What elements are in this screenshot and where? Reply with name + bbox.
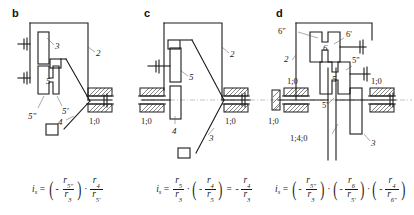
- formula-c-result-den-sub: 3: [247, 196, 250, 203]
- panel-d-label-2: 2: [284, 54, 289, 64]
- panel-c-label-ground-right: 1;0: [225, 116, 236, 126]
- panel-d-label-ground-left: 1;0: [287, 76, 298, 86]
- formula-c-term0: r5 r3: [173, 176, 184, 202]
- panel-d-label-6-dprime: 6": [278, 26, 286, 36]
- formula-panel-b: is = ( - r5" r3 ) · r4 r5': [2, 163, 134, 215]
- formula-row: is = ( - r5" r3 ) · r4 r5' is =: [0, 163, 414, 215]
- formula-d-term0-sign: -: [297, 184, 303, 194]
- formula-panel-d: is = ( - r5" r3 ) · ( - r6 r5' ) · (: [268, 163, 414, 215]
- formula-d-term1: r6 r5': [345, 176, 357, 202]
- panel-b-label-4: 4: [58, 117, 63, 127]
- panel-letter-d: d: [276, 8, 283, 19]
- formula-d-term0-num-sub: 5": [310, 182, 316, 189]
- formula-c-result-num-sub: 4: [247, 182, 250, 189]
- panel-b-label-ground: 1;0: [89, 116, 100, 126]
- panel-d-label-5-dprime: 5": [352, 55, 360, 65]
- panel-b-label-5-prime: 5': [62, 106, 70, 116]
- formula-b-term0-num-sub: 5": [67, 182, 73, 189]
- panel-letter-c: c: [144, 8, 150, 19]
- panel-d: d: [266, 0, 414, 165]
- formula-d-term0-den-sub: 3: [311, 196, 314, 203]
- formula-b-term1-num: r: [93, 175, 97, 185]
- formula-c-term1-num-sub: 4: [211, 182, 214, 189]
- panel-b-label-5-dprime: 5": [28, 111, 37, 121]
- formula-b-lhs-sub: s: [35, 188, 38, 195]
- formula-d-multiply-1: ·: [326, 184, 332, 194]
- formula-d-equals: =: [280, 184, 290, 194]
- panel-c-label-4: 4: [172, 126, 177, 136]
- formula-b-equals: =: [37, 184, 47, 194]
- panel-b-label-2: 2: [96, 48, 101, 58]
- panel-c-label-2: 2: [230, 49, 235, 59]
- formula-b-term1-den-sub: 5': [96, 196, 101, 203]
- formula-b-term0: r5" r3: [61, 176, 75, 202]
- panel-d-label-5-prime: 5': [322, 100, 328, 110]
- formula-d-term2-den-sub: 6": [391, 196, 397, 203]
- panel-c-label-ground-left: 1;0: [141, 116, 152, 126]
- panel-d-label-shaft-140: 1;4;0: [290, 133, 307, 143]
- panel-b-drawing: 3 2 5 5' 5" 4 1;0: [0, 0, 140, 165]
- panel-c-drawing: 5 2 4 3 1;0 1;0: [132, 0, 272, 165]
- formula-d-multiply-2: ·: [366, 184, 372, 194]
- formula-c-result-sign: -: [234, 184, 240, 194]
- panel-d-label-ground-far-left: 1;0: [268, 116, 279, 126]
- panel-b: b: [0, 0, 140, 165]
- panel-d-drawing: 6" 6' 6 2 5" 5 5' 3 1;0 1;0 1;0 1;4;0: [266, 0, 414, 165]
- formula-b-term0-den-sub: 3: [68, 196, 71, 203]
- panel-c-label-5: 5: [189, 72, 194, 82]
- formula-d-term2: r4 r6": [385, 176, 399, 202]
- panel-d-label-3: 3: [370, 138, 376, 148]
- formula-c-term0-num-sub: 5: [179, 182, 182, 189]
- formula-b-multiply: ·: [83, 184, 89, 194]
- formula-d-lhs-sub: s: [278, 188, 281, 195]
- formula-d-term1-den-sub: 5': [351, 196, 356, 203]
- panel-c-label-3: 3: [208, 133, 214, 143]
- panel-c: c: [132, 0, 272, 165]
- formula-d-term2-num-sub: 4: [392, 182, 395, 189]
- formula-d-term1-sign: -: [338, 184, 344, 194]
- panel-d-label-6: 6: [323, 43, 328, 53]
- panel-d-label-5: 5: [332, 74, 337, 84]
- formula-c-term1-sign: -: [198, 184, 204, 194]
- panel-letter-b: b: [12, 8, 19, 19]
- formula-panel-c: is = r5 r3 · ( - r4 r5 ) = - r4 r3: [138, 163, 272, 215]
- formula-c-equals: =: [161, 184, 171, 194]
- formula-c-lhs-sub: s: [159, 188, 162, 195]
- formula-c-multiply: ·: [186, 184, 192, 194]
- formula-d-term1-num-sub: 6: [352, 182, 355, 189]
- formula-b-term1: r4 r5': [90, 176, 102, 202]
- formula-c-term1: r4 r5: [205, 176, 216, 202]
- panel-b-label-3: 3: [54, 41, 60, 51]
- formula-d-term0: r5" r3: [304, 176, 318, 202]
- panel-b-label-5: 5: [46, 76, 51, 86]
- formula-c-equals-2: =: [224, 184, 234, 194]
- figure-container: b: [0, 0, 414, 215]
- panel-d-label-6-prime: 6': [346, 29, 352, 39]
- formula-c-term1-den-sub: 5: [211, 196, 214, 203]
- formula-b-term0-sign: -: [54, 184, 60, 194]
- panel-d-label-ground-right: 1;0: [371, 76, 382, 86]
- formula-c-term0-den-sub: 3: [179, 196, 182, 203]
- formula-b-term1-num-sub: 4: [97, 182, 100, 189]
- formula-c-result: r4 r3: [241, 176, 252, 202]
- formula-d-term2-sign: -: [378, 184, 384, 194]
